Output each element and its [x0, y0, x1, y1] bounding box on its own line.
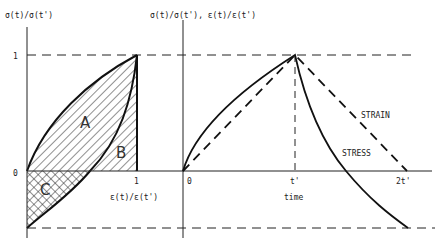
left-y-tick-zero: 0	[13, 169, 18, 178]
right-y-axis-label: σ(t)/σ(t'), ε(t)/ε(t')	[150, 11, 256, 20]
left-plot: σ(t)/σ(t') 1 0 1 ε(t)/ε(t') A B C	[5, 11, 183, 238]
region-b-label: B	[116, 144, 126, 162]
right-plot: σ(t)/σ(t'), ε(t)/ε(t') 0 t' 2t' time STR…	[150, 11, 432, 238]
region-a-label: A	[80, 114, 91, 132]
left-y-axis-label: σ(t)/σ(t')	[5, 11, 53, 20]
right-x-tick-2tprime: 2t'	[396, 177, 410, 186]
right-x-axis-label: time	[284, 193, 303, 202]
strain-label: STRAIN	[361, 111, 390, 120]
region-c-label: C	[40, 181, 50, 199]
right-x-tick-zero: 0	[187, 177, 192, 186]
chart-canvas: σ(t)/σ(t') 1 0 1 ε(t)/ε(t') A B C σ(t)/σ…	[0, 0, 443, 243]
right-x-tick-tprime: t'	[290, 177, 300, 186]
left-x-axis-label: ε(t)/ε(t')	[110, 193, 158, 202]
left-x-tick-one: 1	[134, 177, 139, 186]
stress-label: STRESS	[342, 149, 371, 158]
left-y-tick-one: 1	[13, 52, 18, 61]
